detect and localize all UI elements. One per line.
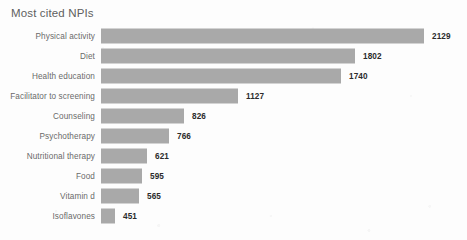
bar-track: 565 (101, 189, 461, 204)
bar-category-label: Vitamin d (60, 192, 95, 201)
bar-row: Isoflavones451 (0, 206, 467, 226)
bar-chart-plot-area: Physical activity2129Diet1802Health educ… (0, 26, 467, 226)
bar-row: Food595 (0, 166, 467, 186)
bar-category-label: Health education (32, 72, 95, 81)
bar-track: 451 (101, 209, 461, 224)
bar-category-label: Nutritional therapy (27, 152, 95, 161)
bar-track: 2129 (101, 29, 461, 44)
bar-track: 1740 (101, 69, 461, 84)
chart-title: Most cited NPIs (11, 7, 94, 19)
bar (101, 169, 142, 184)
bar-track: 826 (101, 109, 461, 124)
bar-value-label: 766 (177, 132, 191, 141)
bar (101, 109, 184, 124)
bar-value-label: 826 (192, 112, 206, 121)
bar (101, 189, 139, 204)
bar-track: 1127 (101, 89, 461, 104)
bar-row: Health education1740 (0, 66, 467, 86)
bar (101, 209, 115, 224)
bar-row: Nutritional therapy621 (0, 146, 467, 166)
bar-row: Counseling826 (0, 106, 467, 126)
bar (101, 129, 169, 144)
bar-value-label: 451 (123, 212, 137, 221)
bar (101, 29, 424, 44)
bar-value-label: 1127 (246, 92, 264, 101)
bar-category-label: Counseling (53, 112, 95, 121)
bar-row: Facilitator to screening1127 (0, 86, 467, 106)
bar-value-label: 621 (155, 152, 169, 161)
bar (101, 89, 238, 104)
bar-category-label: Diet (80, 52, 95, 61)
bar-value-label: 565 (147, 192, 161, 201)
bar-row: Physical activity2129 (0, 26, 467, 46)
chart-container: Most cited NPIs Physical activity2129Die… (0, 0, 467, 240)
bar-category-label: Psychotherapy (40, 132, 95, 141)
bar (101, 49, 355, 64)
bar (101, 149, 147, 164)
bar-category-label: Physical activity (36, 32, 95, 41)
bar-value-label: 2129 (432, 32, 451, 41)
bar-row: Vitamin d565 (0, 186, 467, 206)
bar (101, 69, 341, 84)
bar-value-label: 1802 (363, 52, 382, 61)
bar-category-label: Facilitator to screening (10, 92, 95, 101)
bar-value-label: 1740 (349, 72, 368, 81)
bar-row: Psychotherapy766 (0, 126, 467, 146)
bar-category-label: Food (76, 172, 95, 181)
bar-track: 595 (101, 169, 461, 184)
bar-track: 1802 (101, 49, 461, 64)
bar-value-label: 595 (150, 172, 164, 181)
bar-track: 621 (101, 149, 461, 164)
bar-row: Diet1802 (0, 46, 467, 66)
bar-category-label: Isoflavones (52, 212, 95, 221)
bar-track: 766 (101, 129, 461, 144)
